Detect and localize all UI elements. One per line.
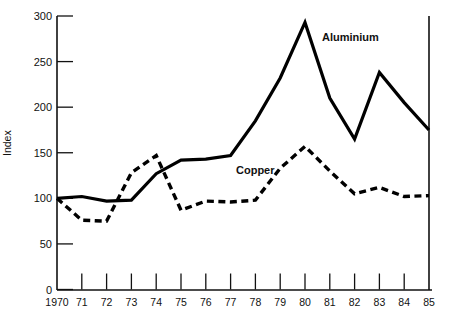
x-tick-label: 75 bbox=[175, 296, 187, 308]
x-tick-label: 85 bbox=[423, 296, 435, 308]
x-axis-ticks bbox=[82, 274, 404, 290]
x-tick-label: 77 bbox=[225, 296, 237, 308]
x-tick-label: 84 bbox=[398, 296, 410, 308]
x-tick-label: 76 bbox=[200, 296, 212, 308]
y-axis: 050100150200250300 Index bbox=[1, 10, 73, 296]
x-tick-label: 74 bbox=[150, 296, 162, 308]
y-tick-label: 250 bbox=[34, 56, 52, 68]
x-tick-label: 81 bbox=[324, 296, 336, 308]
x-axis: 1970717273747576777879808182838485 bbox=[45, 16, 435, 308]
x-tick-label: 72 bbox=[101, 296, 113, 308]
x-tick-label: 71 bbox=[76, 296, 88, 308]
chart-canvas: 050100150200250300 Index 197071727374757… bbox=[0, 0, 460, 320]
y-axis-tick-labels: 050100150200250300 bbox=[34, 10, 52, 296]
x-tick-label: 83 bbox=[374, 296, 386, 308]
series-labels: Aluminium Copper bbox=[236, 31, 379, 176]
x-tick-label: 73 bbox=[126, 296, 138, 308]
series-line-copper bbox=[57, 146, 429, 221]
data-series-group bbox=[57, 22, 429, 221]
y-tick-label: 200 bbox=[34, 101, 52, 113]
y-tick-label: 50 bbox=[40, 238, 52, 250]
y-axis-ticks bbox=[57, 16, 73, 290]
x-tick-label: 1970 bbox=[45, 296, 69, 308]
line-chart: 050100150200250300 Index 197071727374757… bbox=[0, 0, 460, 320]
y-tick-label: 0 bbox=[46, 284, 52, 296]
x-tick-label: 79 bbox=[274, 296, 286, 308]
x-tick-label: 82 bbox=[349, 296, 361, 308]
y-tick-label: 150 bbox=[34, 147, 52, 159]
x-tick-label: 80 bbox=[299, 296, 311, 308]
series-label-aluminium: Aluminium bbox=[322, 31, 379, 43]
series-label-copper: Copper bbox=[236, 164, 275, 176]
x-tick-label: 78 bbox=[250, 296, 262, 308]
y-axis-title: Index bbox=[1, 130, 13, 156]
y-tick-label: 100 bbox=[34, 192, 52, 204]
y-tick-label: 300 bbox=[34, 10, 52, 22]
x-axis-tick-labels: 1970717273747576777879808182838485 bbox=[45, 296, 435, 308]
